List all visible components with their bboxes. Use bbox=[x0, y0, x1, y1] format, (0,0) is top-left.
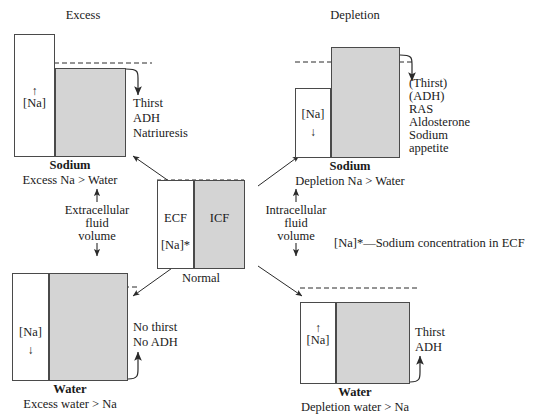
ecf-volume-line2: fluid bbox=[56, 216, 138, 230]
sodium-depletion-response-4: Aldosterone bbox=[409, 115, 470, 129]
water-depletion-response-1: Thirst bbox=[415, 325, 445, 339]
connector-center-to-bottom-right bbox=[258, 266, 302, 296]
hook-arrow-top-left bbox=[126, 69, 138, 95]
water-excess-na-arrow: ↓ bbox=[10, 344, 51, 356]
sodium-depletion-icf-box bbox=[331, 47, 400, 158]
icf-volume-line1: Intracellular bbox=[256, 203, 336, 217]
sodium-excess-caption: Sodium bbox=[14, 158, 126, 172]
water-excess-icf-box bbox=[49, 273, 128, 381]
ecf-volume-line3: volume bbox=[56, 229, 138, 243]
hook-arrow-bottom-right bbox=[410, 356, 420, 382]
center-ecf-label: ECF bbox=[157, 211, 194, 225]
water-excess-response-1: No thirst bbox=[133, 320, 177, 334]
water-depletion-na-label: [Na] bbox=[297, 333, 339, 347]
water-depletion-icf-box bbox=[336, 302, 410, 384]
sodium-depletion-ecf-box bbox=[295, 88, 331, 158]
sodium-depletion-response-5: Sodium bbox=[409, 128, 448, 142]
water-depletion-response-2: ADH bbox=[415, 340, 442, 354]
sodium-depletion-na-arrow: ↓ bbox=[294, 126, 332, 138]
center-caption: Normal bbox=[157, 271, 245, 285]
sodium-excess-na-label: [Na] bbox=[12, 96, 57, 110]
na-star-footnote: [Na]*—Sodium concentration in ECF bbox=[334, 236, 525, 250]
sodium-excess-response-1: Thirst bbox=[133, 96, 163, 110]
water-depletion-subcaption: Depletion water > Na bbox=[285, 400, 425, 414]
center-icf-label: ICF bbox=[194, 211, 245, 225]
sodium-depletion-response-6: appetite bbox=[409, 141, 449, 155]
sodium-excess-icf-box bbox=[55, 68, 126, 157]
diagram-canvas: Excess ↑ [Na] Sodium Excess Na > Water T… bbox=[0, 0, 539, 418]
sodium-depletion-response-3: RAS bbox=[409, 102, 433, 116]
sodium-excess-response-2: ADH bbox=[133, 111, 160, 125]
panel-title-depletion: Depletion bbox=[290, 8, 420, 22]
water-excess-subcaption: Excess water > Na bbox=[0, 397, 140, 411]
center-na-star-label: [Na]* bbox=[155, 238, 196, 252]
sodium-depletion-na-label: [Na] bbox=[292, 107, 334, 121]
sodium-depletion-response-2: (ADH) bbox=[409, 89, 444, 103]
sodium-excess-response-3: Natriuresis bbox=[133, 126, 188, 140]
sodium-depletion-response-1: (Thirst) bbox=[409, 76, 447, 90]
water-excess-caption: Water bbox=[12, 382, 128, 396]
icf-volume-line2: fluid bbox=[256, 216, 336, 230]
panel-title-excess: Excess bbox=[14, 8, 152, 22]
sodium-depletion-caption: Sodium bbox=[300, 159, 400, 173]
sodium-excess-subcaption: Excess Na > Water bbox=[2, 173, 138, 187]
water-excess-na-label: [Na] bbox=[8, 325, 53, 339]
hook-arrow-bottom-left bbox=[128, 352, 138, 379]
water-depletion-caption: Water bbox=[300, 385, 410, 399]
icf-volume-line3: volume bbox=[256, 229, 336, 243]
sodium-depletion-subcaption: Depletion Na > Water bbox=[280, 174, 420, 188]
water-excess-response-2: No ADH bbox=[133, 335, 178, 349]
ecf-volume-line1: Extracellular bbox=[56, 203, 138, 217]
